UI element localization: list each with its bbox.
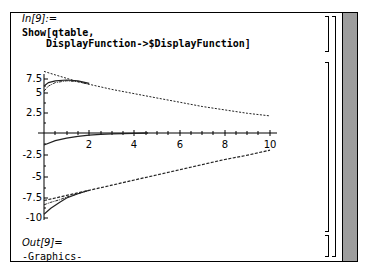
- svg-text:4: 4: [131, 139, 137, 150]
- x-tick-labels: 2 4 6 8 10: [86, 139, 277, 150]
- svg-text:-10: -10: [26, 212, 42, 223]
- svg-text:8: 8: [222, 139, 228, 150]
- svg-text:-2.5: -2.5: [22, 149, 42, 160]
- y-ticks: [44, 79, 48, 218]
- svg-text:2: 2: [86, 139, 92, 150]
- svg-text:-7.5: -7.5: [22, 192, 42, 203]
- y-tick-labels: 7.5 5 2.5 -2.5 -5 -7.5 -10: [22, 73, 42, 223]
- series-lower-dashed: [44, 150, 270, 200]
- svg-text:10: 10: [264, 139, 277, 150]
- svg-text:7.5: 7.5: [26, 73, 42, 84]
- series-upper-dashed: [44, 71, 270, 116]
- svg-text:5: 5: [36, 87, 42, 98]
- output-value[interactable]: -Graphics-: [22, 251, 82, 262]
- curves: [44, 71, 270, 214]
- svg-text:6: 6: [177, 139, 183, 150]
- svg-text:2.5: 2.5: [26, 107, 42, 118]
- axes: 2 4 6 8 10 7.5 5 2.5 -2.5 -5 -7.5 -10: [22, 73, 277, 223]
- output-label: Out[9]=: [22, 237, 63, 248]
- plot: 2 4 6 8 10 7.5 5 2.5 -2.5 -5 -7.5 -10: [0, 0, 370, 272]
- svg-text:-5: -5: [32, 171, 42, 182]
